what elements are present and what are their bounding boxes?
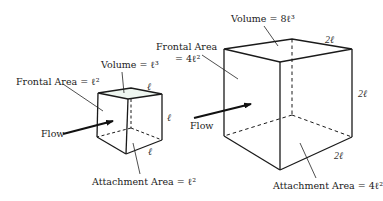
small-edge-bottom-label: ℓ [148, 147, 152, 157]
small-frontal-area-label: Frontal Area = ℓ² [16, 77, 100, 87]
large-attachment-area-label: Attachment Area = 4ℓ² [273, 181, 383, 191]
small-volume-label: Volume = ℓ³ [101, 60, 159, 70]
large-flow-arrow [194, 104, 251, 118]
small-attachment-area-label: Attachment Area = ℓ² [92, 177, 196, 187]
large-frontal-leader [202, 55, 238, 79]
large-edge-bottom-label: 2ℓ [334, 151, 343, 161]
small-attachment-leader [133, 143, 140, 174]
large-flow-label: Flow [190, 121, 213, 131]
small-flow-label: Flow [41, 129, 64, 139]
large-attachment-leader [300, 143, 316, 178]
small-edge-top-label: ℓ [147, 82, 151, 92]
large-frontal-area-label-line2: = 4ℓ² [175, 54, 200, 64]
small-flow-arrow [63, 121, 113, 134]
large-volume-label: Volume = 8ℓ³ [231, 14, 295, 24]
small-cube [97, 88, 162, 154]
large-frontal-area-label-line1: Frontal Area [156, 42, 217, 52]
small-edge-side-label: ℓ [167, 113, 171, 123]
large-edge-side-label: 2ℓ [358, 89, 367, 99]
large-edge-top-label: 2ℓ [325, 35, 334, 45]
large-cube [224, 39, 352, 170]
small-frontal-leader [63, 84, 103, 111]
